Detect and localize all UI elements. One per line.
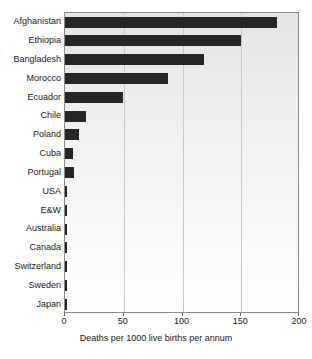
bar-row xyxy=(65,220,298,239)
bar-ethiopia xyxy=(65,35,241,46)
bar-row xyxy=(65,32,298,51)
category-label: Portugal xyxy=(0,167,61,177)
plot-area xyxy=(64,12,299,313)
bar-japan xyxy=(65,299,67,310)
bar-row xyxy=(65,258,298,277)
category-label: Morocco xyxy=(0,73,61,83)
category-label: Chile xyxy=(0,110,61,120)
bar-usa xyxy=(65,186,67,197)
category-label: Canada xyxy=(0,242,61,252)
category-label: Ethiopia xyxy=(0,35,61,45)
bar-row xyxy=(65,145,298,164)
bar-row xyxy=(65,126,298,145)
x-tick-label: 50 xyxy=(118,316,128,326)
bar-bangladesh xyxy=(65,54,204,65)
category-label: E&W xyxy=(0,205,61,215)
bar-afghanistan xyxy=(65,17,277,28)
bar-row xyxy=(65,239,298,258)
category-axis-labels: AfghanistanEthiopiaBangladeshMoroccoEcua… xyxy=(0,12,61,313)
x-tick-label: 200 xyxy=(291,316,306,326)
x-axis: 050100150200 xyxy=(64,313,299,329)
x-tick-label: 100 xyxy=(174,316,189,326)
category-label: Switzerland xyxy=(0,261,61,271)
bar-row xyxy=(65,107,298,126)
category-label: Poland xyxy=(0,129,61,139)
category-label: Japan xyxy=(0,299,61,309)
bar-portugal xyxy=(65,167,74,178)
category-label: USA xyxy=(0,186,61,196)
bar-cuba xyxy=(65,148,73,159)
bar-morocco xyxy=(65,73,168,84)
bar-ecuador xyxy=(65,92,123,103)
category-label: Australia xyxy=(0,223,61,233)
infant-mortality-bar-chart: AfghanistanEthiopiaBangladeshMoroccoEcua… xyxy=(0,0,312,359)
bar-row xyxy=(65,182,298,201)
x-tick-label: 0 xyxy=(61,316,66,326)
bar-australia xyxy=(65,224,67,235)
bar-row xyxy=(65,164,298,183)
x-tick-label: 150 xyxy=(233,316,248,326)
category-label: Bangladesh xyxy=(0,54,61,64)
bar-row xyxy=(65,295,298,313)
bar-row xyxy=(65,51,298,70)
bar-row xyxy=(65,276,298,295)
bar-chile xyxy=(65,111,86,122)
category-label: Ecuador xyxy=(0,92,61,102)
bar-canada xyxy=(65,242,67,253)
category-label: Afghanistan xyxy=(0,16,61,26)
x-axis-title: Deaths per 1000 live births per annum xyxy=(0,333,312,343)
category-label: Cuba xyxy=(0,148,61,158)
bar-row xyxy=(65,13,298,32)
bar-switzerland xyxy=(65,261,67,272)
bar-row xyxy=(65,88,298,107)
bar-e-w xyxy=(65,205,67,216)
category-label: Sweden xyxy=(0,280,61,290)
bar-row xyxy=(65,201,298,220)
bar-sweden xyxy=(65,280,67,291)
bar-poland xyxy=(65,129,79,140)
bar-row xyxy=(65,69,298,88)
